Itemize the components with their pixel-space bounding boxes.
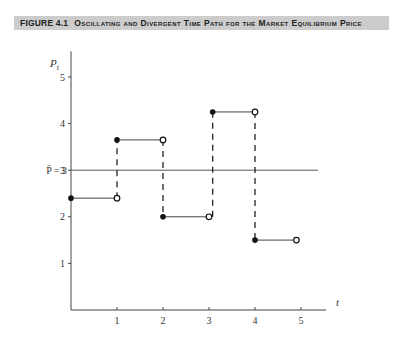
x-tick-label: 2 bbox=[161, 315, 166, 326]
closed-dot bbox=[252, 237, 258, 243]
x-tick-label: 3 bbox=[207, 315, 212, 326]
equilibrium-label: P̄ = 3 bbox=[46, 165, 67, 176]
y-tick-label: 5 bbox=[60, 72, 65, 83]
y-axis-label: Pt bbox=[49, 57, 60, 72]
closed-dot bbox=[210, 109, 216, 115]
open-circle bbox=[160, 137, 166, 143]
open-circle bbox=[294, 237, 300, 243]
y-tick-label: 2 bbox=[60, 211, 65, 222]
x-tick-label: 4 bbox=[253, 315, 258, 326]
x-tick-label: 5 bbox=[299, 315, 304, 326]
x-tick-label: 1 bbox=[115, 315, 120, 326]
y-tick-label: 1 bbox=[60, 258, 65, 269]
closed-dot bbox=[160, 214, 166, 220]
open-circle bbox=[206, 214, 212, 220]
x-axis-label: t bbox=[336, 296, 340, 308]
closed-dot bbox=[68, 195, 74, 201]
closed-dot bbox=[114, 137, 120, 143]
open-circle bbox=[114, 195, 120, 201]
open-circle bbox=[252, 109, 258, 115]
y-tick-label: 4 bbox=[60, 118, 65, 129]
chart-area: 1234512345PttP̄ = 3 bbox=[0, 0, 403, 344]
